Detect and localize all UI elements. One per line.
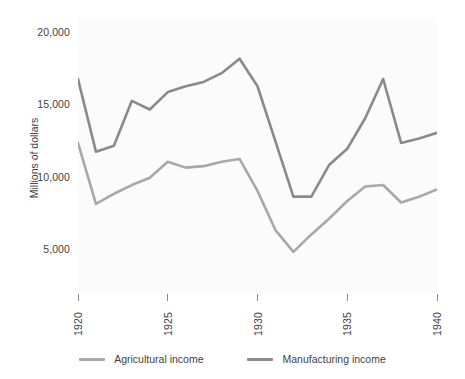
x-tick: 1920 (61, 294, 95, 332)
y-tick-label: 15,000 (8, 99, 70, 110)
x-tick-label: 1930 (251, 312, 263, 336)
x-tick: 1940 (420, 294, 454, 332)
x-tick-label: 1940 (431, 312, 443, 336)
x-tick-label: 1925 (162, 312, 174, 336)
legend-label: Agricultural income (114, 353, 203, 365)
legend-item[interactable]: Manufacturing income (247, 353, 385, 365)
x-tick-label: 1935 (341, 312, 353, 336)
x-tick: 1930 (241, 294, 275, 332)
legend-item[interactable]: Agricultural income (79, 353, 203, 365)
y-tick-label: 10,000 (8, 172, 70, 183)
x-tick: 1935 (330, 294, 364, 332)
x-tick-mark (437, 294, 438, 301)
x-tick-mark (167, 294, 168, 301)
legend-line-swatch (247, 358, 273, 361)
plot-area (78, 18, 437, 294)
y-tick-label: 5,000 (8, 244, 70, 255)
legend-line-swatch (79, 358, 105, 361)
y-tick-label: 20,000 (8, 27, 70, 38)
x-tick-mark (257, 294, 258, 301)
series-lines (78, 18, 437, 294)
x-tick-mark (78, 294, 79, 301)
legend-label: Manufacturing income (282, 353, 385, 365)
x-tick-label: 1920 (72, 312, 84, 336)
series-line-1 (78, 59, 437, 197)
chart-legend: Agricultural incomeManufacturing income (0, 348, 465, 370)
series-line-0 (78, 143, 437, 252)
x-tick-mark (347, 294, 348, 301)
chart-figure: Millions of dollars 5,00010,00015,00020,… (0, 0, 465, 379)
x-tick: 1925 (151, 294, 185, 332)
x-axis: 19201925193019351940 (78, 294, 437, 350)
